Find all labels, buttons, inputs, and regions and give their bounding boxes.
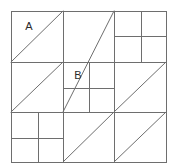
- geometric-figure-svg: Subdivided square geometric figure A lar…: [0, 0, 177, 168]
- figure-label-b: B: [74, 69, 81, 81]
- figure-label-a: A: [25, 20, 33, 32]
- geometric-figure-canvas: Subdivided square geometric figure A lar…: [0, 0, 177, 168]
